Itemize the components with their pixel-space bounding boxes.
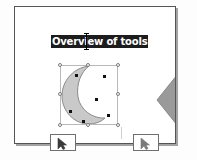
diamond-icon	[155, 63, 175, 137]
resize-handle-nw[interactable]	[58, 63, 62, 67]
shape-selection-box[interactable]	[60, 65, 118, 125]
page-title[interactable]: Overview of tools	[51, 35, 148, 48]
app-root: Overview of tools	[0, 0, 197, 160]
resize-handle-se[interactable]	[116, 123, 120, 127]
text-caret-icon	[86, 33, 87, 50]
caret-bottom-serif	[84, 49, 89, 50]
shape-diamond[interactable]	[155, 63, 175, 137]
path-node[interactable]	[75, 74, 78, 77]
slide-canvas[interactable]: Overview of tools	[14, 6, 176, 144]
path-node[interactable]	[107, 114, 110, 117]
editor-workspace[interactable]: Overview of tools	[0, 0, 197, 160]
arrow-pointer-icon	[57, 137, 68, 150]
slide-content-area: Overview of tools	[15, 7, 175, 143]
resize-handle-ne[interactable]	[116, 63, 120, 67]
path-node[interactable]	[69, 110, 72, 113]
arrow-pointer-icon	[140, 137, 151, 150]
path-node[interactable]	[82, 120, 85, 123]
resize-handle-s[interactable]	[86, 123, 90, 127]
resize-handle-n[interactable]	[86, 63, 90, 67]
resize-handle-sw[interactable]	[58, 123, 62, 127]
resize-handle-w[interactable]	[58, 92, 62, 96]
cursor-indicator-right[interactable]	[133, 134, 159, 151]
cursor-indicator-left[interactable]	[50, 134, 76, 151]
path-node[interactable]	[103, 75, 106, 78]
secondary-caret-icon	[121, 127, 122, 139]
caret-top-serif	[84, 33, 89, 34]
path-node[interactable]	[95, 98, 98, 101]
slide-title-textbox[interactable]: Overview of tools	[51, 35, 148, 48]
resize-handle-e[interactable]	[116, 92, 120, 96]
